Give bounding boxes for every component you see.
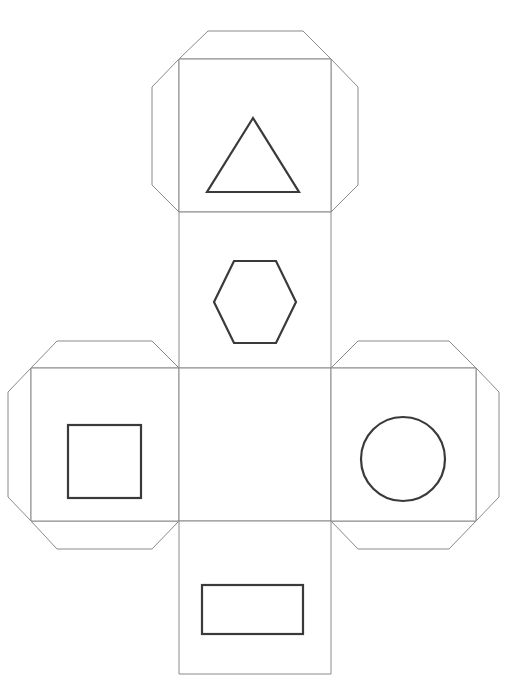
panel-upper-middle (179, 212, 331, 368)
flap-left-panel-bottom (31, 521, 179, 549)
cube-net-drawing (0, 0, 513, 700)
margin-glyph: t (0, 456, 10, 474)
flap-right-panel-top (331, 341, 476, 368)
flap-right-panel-right (476, 368, 499, 521)
flap-left-panel-top (31, 341, 179, 368)
flap-top-panel-left (152, 59, 179, 212)
panel-center (179, 368, 331, 521)
flap-left-panel-left (8, 368, 31, 521)
panel-right (331, 368, 476, 521)
flap-top-panel-right (331, 59, 358, 212)
panel-top (179, 59, 331, 212)
page-canvas: t (0, 0, 513, 700)
flap-right-panel-bottom (331, 521, 476, 549)
flap-top-panel-top (179, 31, 331, 59)
